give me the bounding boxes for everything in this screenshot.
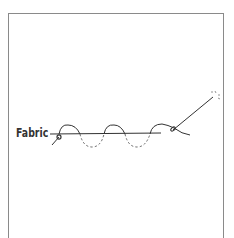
running-stitch-diagram: [0, 0, 234, 238]
sparkle-icon: [212, 91, 220, 99]
stitch-below-2: [125, 134, 150, 147]
thread-trail: [174, 128, 190, 135]
stitch-below-1: [80, 134, 104, 147]
fabric-line: [50, 133, 161, 134]
stitch-above-1: [59, 125, 80, 134]
needle-icon: [173, 97, 213, 130]
stitch-above-2: [104, 125, 125, 134]
